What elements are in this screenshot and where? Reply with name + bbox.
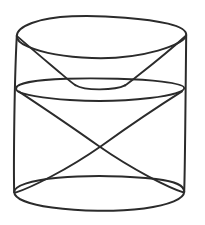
line-drawing-svg: Cylinder with inscribed cone and funnel … — [0, 0, 205, 225]
funnel-base-curve — [76, 85, 126, 89]
right-side-wall — [184, 35, 186, 192]
left-side-wall — [14, 36, 17, 192]
funnel-left-edge — [18, 37, 76, 86]
top-rim-ellipse — [17, 16, 186, 58]
funnel-right-edge — [125, 36, 186, 85]
figure-canvas: Cylinder with inscribed cone and funnel … — [0, 0, 205, 225]
